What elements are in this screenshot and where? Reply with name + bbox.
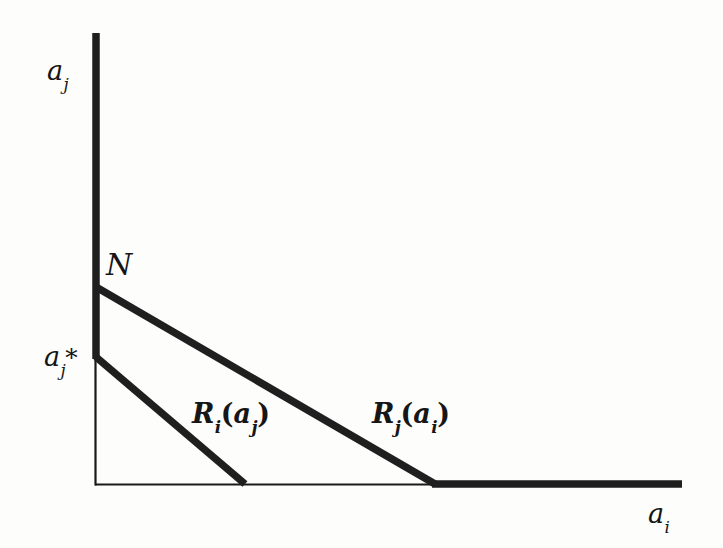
rj-label-base: R bbox=[372, 398, 394, 429]
ri-label-argument-subscript: j bbox=[251, 417, 257, 437]
rj-label-argument-subscript: i bbox=[431, 417, 437, 437]
ri-label-open-paren: ( bbox=[221, 398, 234, 429]
aj-star-asterisk: * bbox=[65, 343, 77, 372]
aj-star-subscript: j bbox=[60, 360, 65, 380]
y-axis-label-base: a bbox=[47, 55, 63, 86]
rj-label-open-paren: ( bbox=[401, 398, 414, 429]
x-axis-label-base: a bbox=[648, 498, 664, 529]
rj-label-close-paren: ) bbox=[437, 398, 450, 429]
ri-label-base: R bbox=[192, 398, 214, 429]
y-axis-label-subscript: j bbox=[63, 74, 68, 94]
rj-label-subscript: j bbox=[395, 417, 401, 437]
ri-label-argument: a bbox=[234, 398, 252, 429]
y-axis-label: aj bbox=[47, 57, 68, 89]
ri-label-subscript: i bbox=[215, 417, 221, 437]
x-axis-label-subscript: i bbox=[664, 517, 669, 537]
aj-star-base: a bbox=[44, 341, 60, 372]
rj-label-argument: a bbox=[413, 398, 431, 429]
reaction-function-i-label: Ri(aj) bbox=[192, 400, 270, 432]
nash-equilibrium-label: N bbox=[106, 250, 132, 280]
ri-label-close-paren: ) bbox=[257, 398, 270, 429]
x-axis-label: ai bbox=[648, 500, 669, 532]
reaction-function-j-line bbox=[96, 287, 435, 484]
reaction-function-j-label: Rj(ai) bbox=[372, 400, 450, 432]
best-response-figure: aj ai N aj* Ri(aj) Rj(ai) bbox=[0, 0, 723, 548]
nash-equilibrium-label-text: N bbox=[106, 247, 132, 282]
aj-star-label: aj* bbox=[44, 343, 78, 375]
